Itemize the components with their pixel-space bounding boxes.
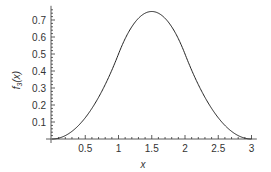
- density-curve: [52, 12, 252, 140]
- x-tick-label: 1.5: [145, 143, 159, 154]
- y-axis-label: f3(x): [11, 71, 23, 89]
- x-tick-label: 2.5: [211, 143, 225, 154]
- y-tick-label: 0.5: [32, 49, 46, 60]
- x-axis: [46, 135, 257, 139]
- y-tick-label: 0.2: [32, 100, 46, 111]
- y-axis: [51, 6, 55, 143]
- y-tick-label: 0.3: [32, 83, 46, 94]
- y-tick-label: 0.7: [32, 15, 46, 26]
- x-axis-label: x: [140, 159, 147, 170]
- x-tick-label: 3: [249, 143, 255, 154]
- x-tick-labels: 0.511.522.53: [78, 143, 254, 154]
- x-tick-label: 1: [116, 143, 122, 154]
- y-tick-label: 0.1: [32, 117, 46, 128]
- y-axis-label-tail: (x): [11, 71, 22, 83]
- y-tick-label: 0.6: [32, 32, 46, 43]
- y-tick-labels: 0.10.20.30.40.50.60.7: [32, 15, 46, 128]
- x-tick-label: 2: [182, 143, 188, 154]
- y-tick-label: 0.4: [32, 66, 46, 77]
- x-tick-label: 0.5: [78, 143, 92, 154]
- density-chart: 0.10.20.30.40.50.60.7 0.511.522.53 x f3(…: [0, 0, 271, 172]
